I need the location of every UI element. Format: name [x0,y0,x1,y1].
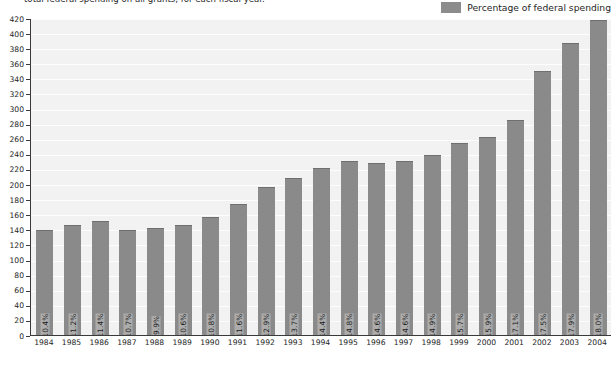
y-axis-tick-label: 200 [10,181,25,190]
y-axis-tick-label: 20 [14,316,24,325]
bar[interactable]: 17.5% [534,71,551,335]
bar-value-label: 15.7% [455,314,464,335]
y-axis-tick-label: 420 [10,15,25,24]
bar-value-wrap: 9.9% [147,297,164,333]
x-axis-tick-label: 1984 [30,338,58,347]
y-axis-tick-label: 60 [14,286,24,295]
bar-value-wrap: 14.8% [341,297,358,333]
plot-inner: 10.4%11.2%11.4%10.7%9.9%10.6%10.8%11.6%1… [31,19,611,335]
bar[interactable]: 14.6% [368,163,385,335]
gridline [31,94,611,95]
bar-value-wrap: 15.7% [451,297,468,333]
y-axis-tick-label: 380 [10,45,25,54]
bar-value-label: 14.9% [428,314,437,335]
bar[interactable]: 15.9% [479,137,496,336]
bar[interactable]: 10.6% [175,225,192,335]
bar[interactable]: 12.9% [258,187,275,335]
bar-value-label: 14.6% [372,314,381,335]
bar-value-wrap: 10.6% [175,297,192,333]
bar-value-wrap: 11.2% [64,297,81,333]
y-axis-tick-label: 400 [10,30,25,39]
bar-value-label: 10.8% [206,314,215,335]
gridline [31,79,611,80]
y-axis-tick-label: 320 [10,90,25,99]
x-axis-tick-label: 1999 [445,338,473,347]
bar-value-wrap: 14.9% [424,297,441,333]
bar-value-wrap: 15.9% [479,297,496,333]
bar[interactable]: 9.9% [147,228,164,335]
bar[interactable]: 11.2% [64,225,81,335]
bar-value-label: 12.9% [262,314,271,335]
gridline [31,125,611,126]
bar-value-label: 14.8% [345,314,354,335]
bar-value-wrap: 10.7% [119,297,136,333]
bar-value-wrap: 11.4% [92,297,109,333]
x-axis-tick-label: 1998 [417,338,445,347]
bar[interactable]: 10.8% [202,217,219,335]
legend-swatch-icon [441,2,461,13]
bar[interactable]: 17.9% [562,43,579,335]
plot-area: 10.4%11.2%11.4%10.7%9.9%10.6%10.8%11.6%1… [30,19,611,336]
gridline [31,155,611,156]
bar-value-wrap: 10.8% [202,297,219,333]
bar-value-label: 11.6% [234,314,243,335]
bar-value-label: 14.6% [400,314,409,335]
x-axis-tick-label: 1989 [168,338,196,347]
bar-value-label: 10.6% [179,314,188,335]
gridline [31,140,611,141]
x-axis-tick-label: 2002 [528,338,556,347]
chart-legend: Percentage of federal spending [441,2,611,13]
bar[interactable]: 18.0% [590,20,607,335]
bar[interactable]: 10.7% [119,230,136,335]
bar[interactable]: 14.9% [424,155,441,335]
bar-value-label: 9.9% [151,316,160,335]
bar-value-wrap: 14.6% [396,297,413,333]
bar-value-label: 17.5% [538,314,547,335]
y-axis-tick-label: 340 [10,75,25,84]
bar-value-label: 10.7% [123,314,132,335]
header-strip: total federal spending on all grants, fo… [0,0,613,18]
bar[interactable]: 11.6% [230,204,247,335]
x-axis-tick-label: 2004 [583,338,611,347]
x-axis-tick-label: 1992 [251,338,279,347]
bar[interactable]: 11.4% [92,221,109,335]
bar[interactable]: 17.1% [507,120,524,335]
bar-value-label: 17.1% [511,314,520,335]
bar-value-wrap: 14.4% [313,297,330,333]
gridline [31,64,611,65]
bar-value-wrap: 10.4% [36,297,53,333]
x-axis: 1984198519861987198819891990199119921993… [30,338,611,354]
legend-label: Percentage of federal spending [467,2,611,13]
x-axis-tick-label: 2003 [556,338,584,347]
x-axis-tick-label: 1994 [307,338,335,347]
x-axis-tick-label: 1995 [334,338,362,347]
y-axis-tick-mark [26,336,30,337]
y-axis-tick-label: 0 [19,332,24,341]
x-axis-tick-label: 1986 [85,338,113,347]
bar-value-wrap: 17.9% [562,297,579,333]
bar-value-label: 11.2% [68,314,77,335]
y-axis-tick-label: 260 [10,135,25,144]
x-axis-tick-label: 1993 [279,338,307,347]
bar-value-wrap: 11.6% [230,297,247,333]
y-axis-tick-label: 40 [14,301,24,310]
bar[interactable]: 14.8% [341,161,358,335]
y-axis-tick-label: 140 [10,226,25,235]
bar-value-wrap: 17.5% [534,297,551,333]
bar[interactable]: 13.7% [285,178,302,335]
bar-value-label: 18.0% [594,314,603,335]
chart-caption: total federal spending on all grants, fo… [24,0,384,5]
bar-value-wrap: 18.0% [590,297,607,333]
gridline [31,49,611,50]
bar-value-label: 15.9% [483,314,492,335]
bar[interactable]: 14.6% [396,161,413,335]
bar-value-label: 11.4% [96,314,105,335]
bar[interactable]: 15.7% [451,143,468,335]
bar[interactable]: 10.4% [36,230,53,335]
bar-value-label: 10.4% [40,314,49,335]
bar-value-wrap: 17.1% [507,297,524,333]
x-axis-tick-label: 1997 [390,338,418,347]
bar-value-wrap: 12.9% [258,297,275,333]
y-axis-tick-label: 180 [10,196,25,205]
bar[interactable]: 14.4% [313,168,330,335]
